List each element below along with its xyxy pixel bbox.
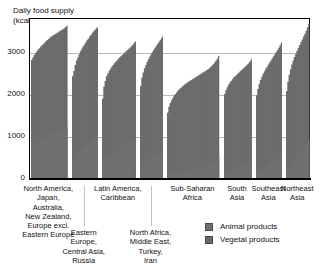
area-group-1 xyxy=(72,19,98,178)
category-label-7: Northeast Asia xyxy=(275,184,319,203)
legend-item-animal-products[interactable]: Animal products xyxy=(205,221,280,232)
x-axis-line xyxy=(29,178,311,180)
area-group-6 xyxy=(256,19,282,178)
chart-figure: Daily food supply (kcal/capita) 01000200… xyxy=(0,0,329,266)
legend-label: Animal products xyxy=(220,222,277,231)
category-label-3: North Africa, Middle East, Turkey, Iran xyxy=(129,228,173,265)
category-label-1: Eastern Europe, Central Asia, Russia xyxy=(62,228,106,265)
legend-swatch-icon xyxy=(205,236,213,244)
chart-legend: Animal productsVegetal products xyxy=(205,221,280,247)
legend-label: Vegetal products xyxy=(220,235,280,244)
area-group-5 xyxy=(224,19,253,178)
area-group-3 xyxy=(140,19,164,178)
category-separator-3 xyxy=(151,186,152,226)
area-group-0 xyxy=(31,19,68,178)
legend-item-vegetal-products[interactable]: Vegetal products xyxy=(205,234,280,245)
y-tick-label-0: 0 xyxy=(0,174,25,182)
plot-area xyxy=(29,18,310,178)
area-group-7 xyxy=(286,19,310,178)
y-tick-label-2000: 2000 xyxy=(0,90,25,98)
category-label-2: Latin America, Caribbean xyxy=(93,184,143,203)
area-group-4 xyxy=(167,19,219,178)
legend-swatch-icon xyxy=(205,223,213,231)
category-separator-1 xyxy=(84,186,85,226)
y-tick-label-1000: 1000 xyxy=(0,132,25,140)
stacked-area-groups xyxy=(30,19,309,178)
area-group-2 xyxy=(102,19,136,178)
chart-title-line1: Daily food supply xyxy=(13,6,74,15)
y-tick-label-3000: 3000 xyxy=(0,48,25,56)
